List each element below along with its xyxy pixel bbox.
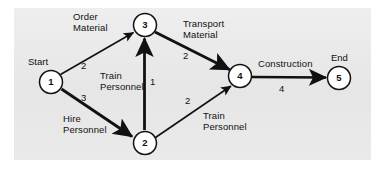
node-3-label: 3 bbox=[142, 19, 147, 30]
activity-label-train-personnel-2-4: Train Personnel bbox=[203, 111, 247, 132]
weight-construction: 4 bbox=[279, 83, 284, 94]
activity-label-hire-personnel: Hire Personnel bbox=[63, 114, 107, 135]
node-4[interactable]: 4 bbox=[229, 65, 252, 88]
node-2[interactable]: 2 bbox=[134, 132, 157, 155]
node-3[interactable]: 3 bbox=[134, 14, 157, 37]
start-label: Start bbox=[28, 56, 48, 67]
node-4-label: 4 bbox=[237, 70, 243, 81]
activity-label-construction: Construction bbox=[258, 59, 313, 70]
diagram-canvas: 1 2 3 4 5 Start End Order Material Train… bbox=[0, 0, 391, 173]
activity-label-train-personnel-2-3: Train Personnel bbox=[100, 71, 144, 92]
node-1-label: 1 bbox=[48, 76, 54, 87]
weight-train-personnel-2-4: 2 bbox=[185, 95, 190, 106]
node-1[interactable]: 1 bbox=[40, 71, 63, 94]
node-5[interactable]: 5 bbox=[328, 67, 351, 90]
weight-train-personnel-2-3: 1 bbox=[150, 76, 155, 87]
activity-label-order-material: Order Material bbox=[73, 12, 108, 33]
edge-4-to-5 bbox=[252, 77, 326, 78]
node-5-label: 5 bbox=[336, 72, 342, 83]
weight-order-material: 2 bbox=[81, 60, 86, 71]
edge-1-to-3 bbox=[61, 33, 134, 75]
weight-hire-personnel: 3 bbox=[81, 92, 86, 103]
weight-transport-material: 2 bbox=[183, 50, 188, 61]
activity-label-transport-material: Transport Material bbox=[183, 19, 224, 40]
end-label: End bbox=[331, 52, 348, 63]
node-2-label: 2 bbox=[142, 137, 147, 148]
